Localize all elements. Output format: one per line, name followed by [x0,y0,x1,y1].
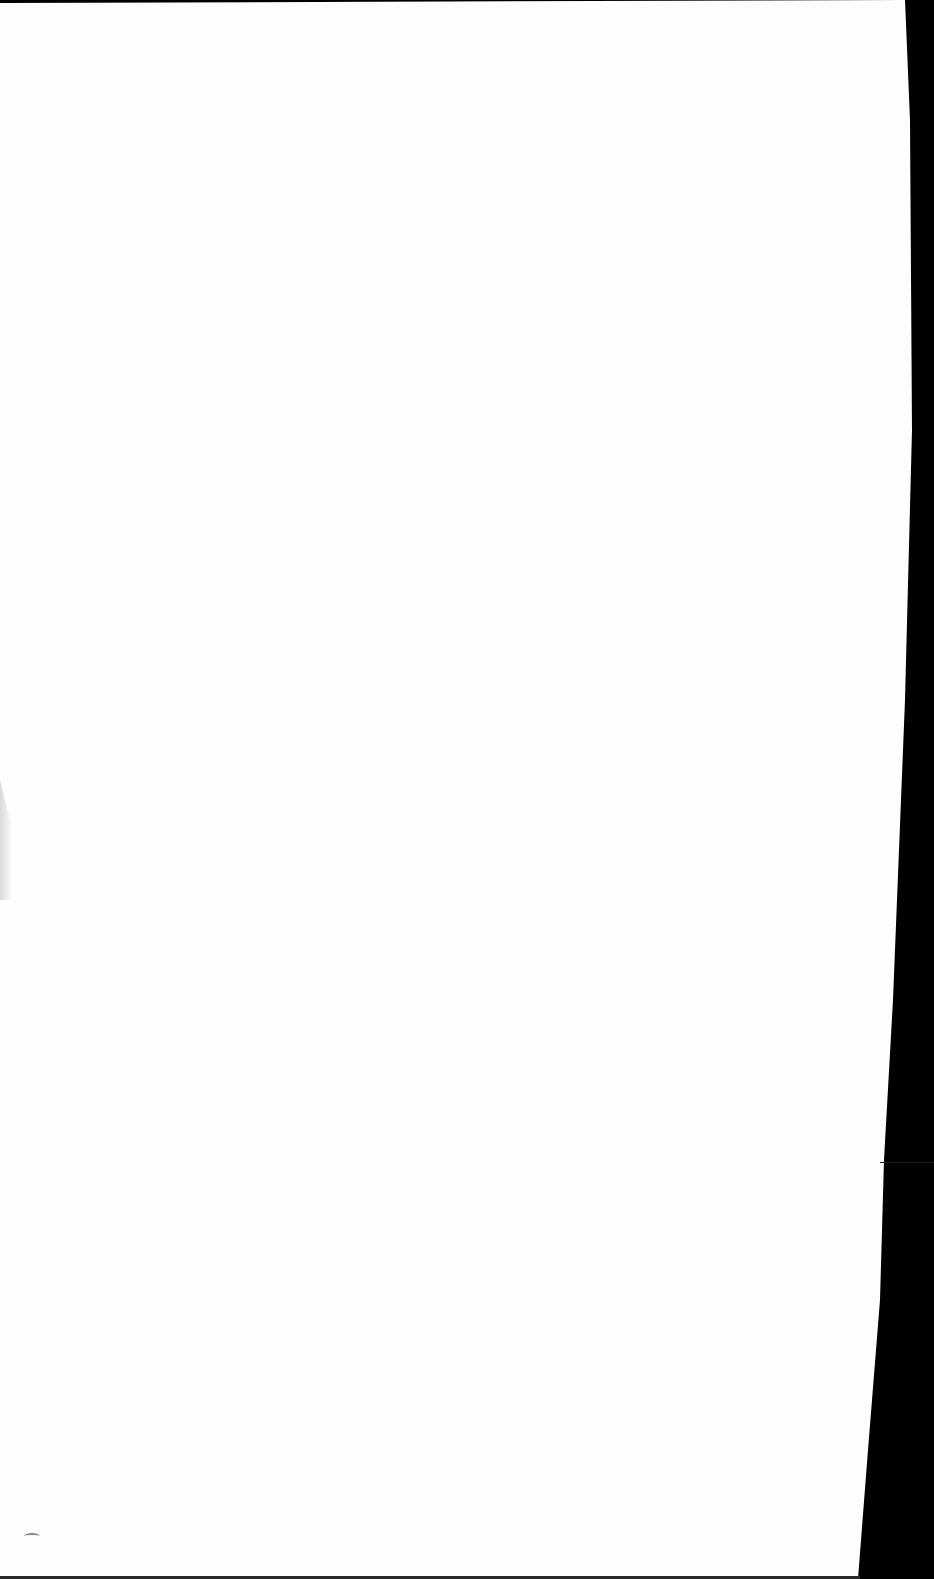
scan-background [0,0,934,1579]
paper-top-edge-shadow [20,0,380,2]
paper-blemish-mark [24,1533,40,1539]
background-seam-line [880,1162,934,1163]
blank-paper-sheet [0,0,934,1579]
paper-left-fold-shadow [0,780,12,900]
